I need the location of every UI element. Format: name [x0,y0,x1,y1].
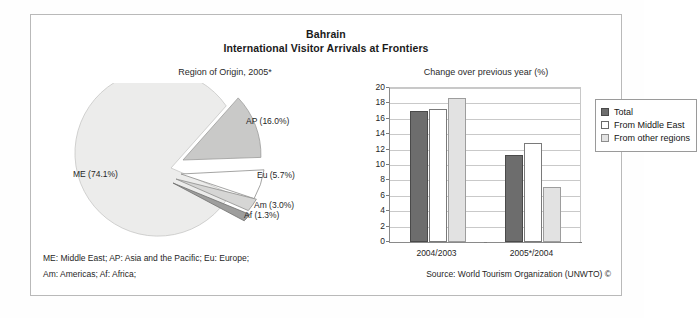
bar-middleeast-0 [429,109,447,242]
bar-chart-caption: Change over previous year (%) [361,67,611,77]
x-axis-tickmark [579,242,582,243]
y-axis-tickmark [386,195,389,196]
bar-chart-legend: TotalFrom Middle EastFrom other regions [595,99,697,152]
legend-label: From other regions [614,133,690,143]
y-axis-tickmark [386,102,389,103]
source-note: Source: World Tourism Organization (UNWT… [426,269,611,279]
gridline [390,88,580,89]
y-axis-tick-label: 10 [363,159,385,169]
legend-item-otherregions[interactable]: From other regions [601,133,690,143]
y-axis-tickmark [386,179,389,180]
y-axis-tick-label: 16 [363,113,385,123]
y-axis-tick-label: 12 [363,144,385,154]
pie-label-eu: Eu (5.7%) [257,170,295,180]
y-axis-tickmark [386,164,389,165]
pie-chart-svg [71,83,351,253]
page-title: Bahrain [31,28,621,40]
y-axis-tick-label: 6 [363,190,385,200]
y-axis-tick-label: 4 [363,205,385,215]
legend-swatch-icon [601,134,609,142]
legend-item-middleeast[interactable]: From Middle East [601,120,690,130]
y-axis-tickmark [386,87,389,88]
y-axis-tickmark [386,241,389,242]
bar-otherregions-0 [448,98,466,242]
y-axis-tickmark [386,226,389,227]
bar-otherregions-1 [543,187,561,242]
pie-chart-caption: Region of Origin, 2005* [115,67,335,77]
figure-subtitle: International Visitor Arrivals at Fronti… [31,42,621,54]
y-axis-tick-label: 14 [363,128,385,138]
pie-label-am: Am (3.0%) [254,200,294,210]
y-axis-tick-label: 20 [363,82,385,92]
y-axis-tickmark [386,118,389,119]
y-axis-tick-label: 18 [363,97,385,107]
x-axis-tick-label: 2004/2003 [397,248,477,258]
figure-frame: Bahrain International Visitor Arrivals a… [30,14,622,296]
pie-label-me: ME (74.1%) [73,169,118,179]
bar-total-0 [410,111,428,242]
pie-chart: ME (74.1%) AP (16.0%) Eu (5.7%) Am (3.0%… [71,83,351,253]
legend-item-total[interactable]: Total [601,107,690,117]
pie-label-af: Af (1.3%) [244,210,279,220]
y-axis-tickmark [386,149,389,150]
bar-plot-area [389,87,581,243]
y-axis-tickmark [386,133,389,134]
pie-label-ap: AP (16.0%) [246,116,289,126]
legend-label: From Middle East [614,120,685,130]
x-axis-tick-label: 2005*/2004 [492,248,572,258]
abbreviation-note-line1: ME: Middle East; AP: Asia and the Pacifi… [43,253,249,263]
legend-swatch-icon [601,108,609,116]
bar-middleeast-1 [524,143,542,242]
y-axis-tick-label: 8 [363,174,385,184]
y-axis-tick-label: 2 [363,221,385,231]
gridline [390,103,580,104]
x-axis-tickmark [484,242,487,243]
y-axis-tickmark [386,210,389,211]
abbreviation-note-line2: Am: Americas; Af: Africa; [43,269,136,279]
bar-total-1 [505,155,523,242]
y-axis-tick-label: 0 [363,236,385,246]
bar-chart: TotalFrom Middle EastFrom other regions … [363,81,641,271]
legend-label: Total [614,107,633,117]
legend-swatch-icon [601,121,609,129]
